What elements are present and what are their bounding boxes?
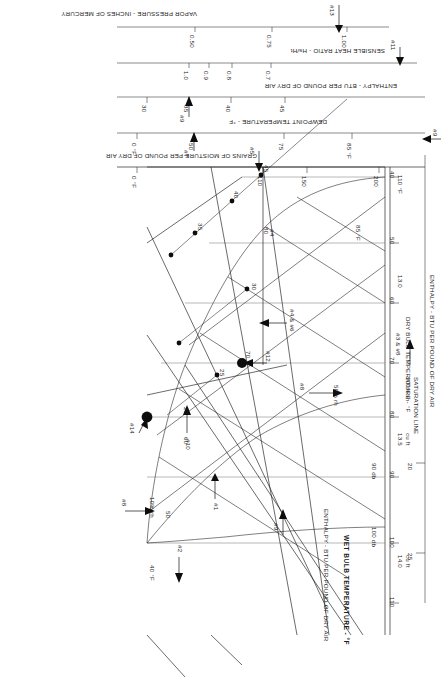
tick-enth-25: 25 [219,369,225,376]
tick-shr-1-0: 1.0 [183,71,189,80]
callout-9-enthalpy-top: #9 [179,115,185,122]
tick-db-70: 70 [389,357,395,364]
tick-grains-0: 0 °F [131,176,137,188]
tick-enth-45: 45 [263,165,269,172]
tick-db-50: 50 [389,237,395,244]
tick-shr-0-8: 0.8 [226,71,232,80]
tick-shr-0-7: 0.7 [265,71,271,80]
callout-2: #2 [177,545,183,552]
axis-label-enthalpy-top: ENTHALPY - BTU PER POUND OF DRY AIR [265,83,398,89]
tick-db-60: 60 [389,297,395,304]
axis-label-vapor-pressure: VAPOR PRESSURE - INCHES OF MERCURY [61,11,197,17]
axis-label-enthalpy-right: ENTHALPY - BTU PER POUND OF DRY AIR [429,275,435,408]
tick-grains-110: 110 [257,176,263,186]
axis-label-sensible-heat-ratio: SENSIBLE HEAT RATIO - Hs/Ht [291,48,385,54]
tick-grains-150: 150 [301,176,307,187]
callout-3-and-8: #3 & #8 [395,333,401,356]
tick-enthalpy-top-35: 35 [183,105,189,112]
tick-enthalpy-top-45: 45 [279,105,285,112]
tick-wb-50: 50 [165,511,171,518]
callout-11: #11 [390,40,396,50]
spec-vol-unit-13-5: cu ft [405,433,411,446]
axis-label-dewpoint: DEWPOINT TEMPERATURE - °F [229,119,327,125]
callout-9-side: #9 [432,129,438,136]
chart-vector-artwork [0,0,447,695]
callout-8-rh10: #8 [121,499,127,506]
axis-label-grains: GRAINS OF MOISTURE PER POUND OF DRY AIR [106,153,257,159]
tick-wb-70: 70 [245,351,251,358]
tick-enth-40: 40 [233,191,239,198]
tick-db-40: 40 [389,171,395,178]
callout-1: #1 [213,503,219,510]
tick-grains-200: 200 [373,176,379,187]
tick-enth-30: 30 [251,283,257,290]
label-db-90: 90 db [371,463,377,479]
tick-spec-vol-13-0: 13.0 [397,275,403,288]
callout-4: #4 [269,229,275,236]
tick-db-90: 90 [389,471,395,478]
callout-4-and-6: #4 & #6 [289,309,295,332]
callout-9-enthalpy-left: #9 [273,523,279,530]
tick-enthalpy-top-40: 40 [225,105,231,112]
callout-14: #14 [129,423,135,434]
label-rh-50: 50% rh [333,385,339,406]
tick-spec-vol-14-0: 14.0 [397,555,403,568]
tick-dewpoint-85: 85 °F [346,143,352,159]
tick-grains-bottom-110F: 110 °F [397,175,403,194]
tick-db-110: 110 [389,597,395,607]
tick-side-20: 20 [407,463,413,470]
label-saturation-rh: 100% rh [405,377,411,401]
label-db-100: 100 db [371,527,377,547]
tick-wb-40: 40 °F [149,565,155,581]
callout-10: #10 [185,439,191,450]
axis-label-wet-bulb: WET BULB TEMPERATURE - °F [342,535,349,645]
callout-12: #12 [265,351,271,362]
spec-vol-unit-14: cu ft [405,555,411,568]
callout-8-rh50: #8 [299,383,305,390]
callout-5: #5 [249,147,255,154]
axis-label-enthalpy-left: ENTHALPY - BTU PER POUND OF DRY AIR [323,509,329,642]
callout-13: #13 [329,5,335,16]
tick-vapor-0-50: 0.50 [189,35,195,48]
chart-sheet-rotated-180: VAPOR PRESSURE - INCHES OF MERCURY 1.00 … [0,0,447,695]
psychrometric-chart-screenshot: VAPOR PRESSURE - INCHES OF MERCURY 1.00 … [0,0,447,695]
tick-db-80: 80 [389,411,395,418]
tick-wb-85: 85 °F [355,225,361,241]
tick-vapor-1-00: 1.00 [341,35,347,48]
tick-dewpoint-75: 75 [278,143,284,150]
label-rh-10: 10% rh [149,497,155,518]
tick-enth-35: 35 [197,223,203,230]
tick-spec-vol-13-5: 13.5 [397,433,403,446]
tick-enthalpy-top-30: 30 [141,105,147,112]
label-saturation-line: SATURATION LINE [413,377,419,434]
tick-enth-20: 20 [183,407,189,414]
tick-vapor-0-75: 0.75 [266,35,272,48]
tick-db-100: 100 [389,537,395,548]
tick-shr-0-9: 0.9 [203,71,209,80]
